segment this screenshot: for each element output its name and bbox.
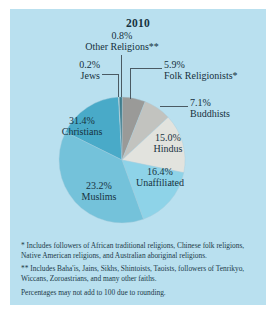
- label-other-religions-name: Other Religions**: [62, 42, 182, 53]
- figure-container: 2010: [0, 0, 276, 315]
- label-muslims-name: Muslims: [66, 192, 132, 203]
- leader-line-jews: [102, 74, 118, 97]
- footnote-rounding: Percentages may not add to 100 due to ro…: [21, 288, 257, 298]
- label-christians: 31.4% Christians: [44, 116, 120, 138]
- footnotes: * Includes followers of African traditio…: [21, 241, 257, 298]
- label-christians-name: Christians: [44, 127, 120, 138]
- label-unaffiliated: 16.4% Unaffiliated: [122, 167, 198, 189]
- footnote-double-asterisk: ** Includes Baha'is, Jains, Sikhs, Shint…: [21, 264, 257, 284]
- leader-line-folk-religionists: [130, 68, 162, 99]
- label-hindus: 15.0% Hindus: [136, 133, 200, 155]
- label-buddhists-name: Buddhists: [190, 109, 264, 120]
- label-buddhists: 7.1% Buddhists: [190, 98, 264, 120]
- label-other-religions: 0.8% Other Religions**: [62, 31, 182, 53]
- label-hindus-name: Hindus: [136, 144, 200, 155]
- label-unaffiliated-name: Unaffiliated: [122, 178, 198, 189]
- label-folk-religionists: 5.9% Folk Religionists*: [164, 60, 264, 82]
- footnote-single-asterisk: * Includes followers of African traditio…: [21, 241, 257, 261]
- label-muslims: 23.2% Muslims: [66, 181, 132, 203]
- label-jews: 0.2% Jews: [32, 60, 100, 82]
- label-jews-name: Jews: [32, 71, 100, 82]
- chart-panel: 2010: [10, 9, 266, 305]
- label-folk-religionists-name: Folk Religionists*: [164, 71, 264, 82]
